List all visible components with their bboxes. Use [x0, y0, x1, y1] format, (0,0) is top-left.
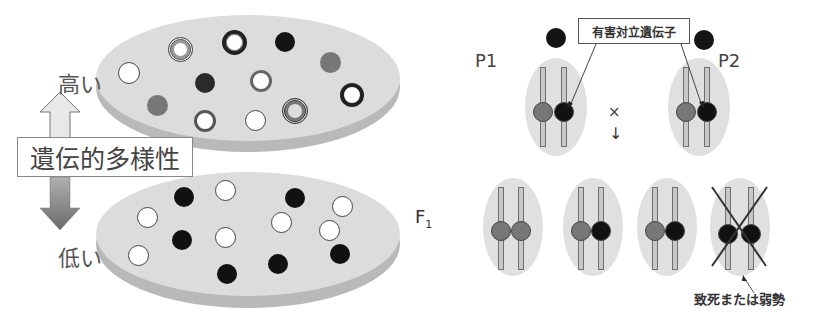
lethal-or-weak-label: 致死または弱勢: [694, 289, 785, 308]
callout-pointer-p1: [570, 44, 596, 106]
deleterious-allele-callout: 有害対立遺伝子: [578, 18, 690, 44]
callout-pointer-p2: [681, 44, 702, 106]
right-panel-lines: [0, 0, 813, 319]
